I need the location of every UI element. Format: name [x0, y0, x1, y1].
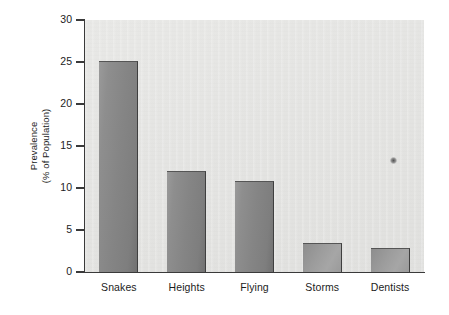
y-tick-mark: [76, 271, 84, 272]
y-tick-label: 20: [50, 97, 72, 109]
x-axis-line: [84, 272, 425, 273]
bar-dentists: [371, 248, 410, 272]
y-tick-label: 5: [50, 223, 72, 235]
y-tick-label: 25: [50, 55, 72, 67]
x-category-label-heights: Heights: [153, 281, 221, 293]
bar-chart-figure: Prevalence (% of Population) 05101520253…: [0, 0, 449, 315]
y-tick-mark: [76, 229, 84, 230]
bar-heights: [167, 171, 206, 272]
y-tick-mark: [76, 145, 84, 146]
y-tick-label: 30: [50, 13, 72, 25]
y-tick-mark: [76, 187, 84, 188]
y-tick-label: 10: [50, 181, 72, 193]
x-category-label-dentists: Dentists: [356, 281, 424, 293]
x-category-label-snakes: Snakes: [85, 281, 153, 293]
y-tick-label: 15: [50, 139, 72, 151]
y-tick-mark: [76, 19, 84, 20]
y-tick-mark: [76, 103, 84, 104]
y-axis-title-line-1: Prevalence: [28, 122, 40, 171]
y-tick-label: 0: [50, 265, 72, 277]
y-axis-line: [84, 19, 85, 273]
y-tick-mark: [76, 61, 84, 62]
x-category-label-flying: Flying: [221, 281, 289, 293]
x-category-label-storms: Storms: [288, 281, 356, 293]
bar-snakes: [99, 61, 138, 272]
bar-flying: [235, 181, 274, 272]
bar-storms: [303, 243, 342, 272]
